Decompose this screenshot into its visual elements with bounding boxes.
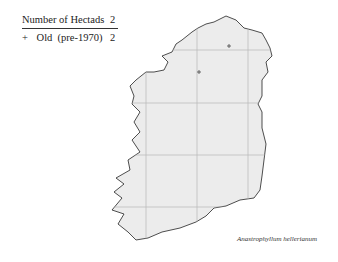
distribution-map [0, 0, 338, 262]
species-caption: Anastrophyllum hellerianum [237, 235, 317, 243]
